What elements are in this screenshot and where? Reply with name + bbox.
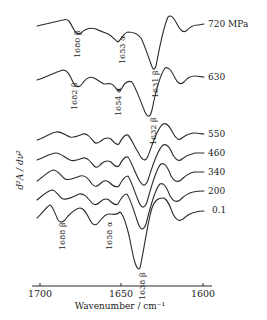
annotation-1658: 1658 α [105,221,114,250]
annotation-1654: 1654 α [114,87,123,116]
y-axis-label: d²A / dν² [15,150,25,190]
x-axis-label: Wavenumber / cm⁻¹ [75,301,165,311]
annotation-1632: 1632 β [149,117,158,145]
annotation-1688: 1688 β [58,222,67,250]
annotation-1653: 1653 α [118,35,127,64]
trace-460 [37,145,204,186]
trace-550 [37,124,204,160]
annotation-1631: 1631 β [151,70,160,98]
series-label-550: 550 [208,129,225,139]
series-label-460: 460 [208,148,225,158]
annotation-1680: 1680 β [73,30,82,58]
x-tick-label-1600: 1600 [191,288,215,299]
series-label-200: 200 [208,186,225,196]
series-label-720: 720 MPa [208,19,249,29]
spectra-chart: 720 MPa 630 550 460 340 200 0.1 1680 β 1… [0,0,267,320]
series-label-340: 340 [208,167,225,177]
x-tick-label-1650: 1650 [109,288,133,299]
series-label-0.1: 0.1 [212,205,226,215]
annotation-1682: 1682 β [70,82,79,110]
series-label-630: 630 [208,72,225,82]
x-tick-label-1700: 1700 [28,288,52,299]
